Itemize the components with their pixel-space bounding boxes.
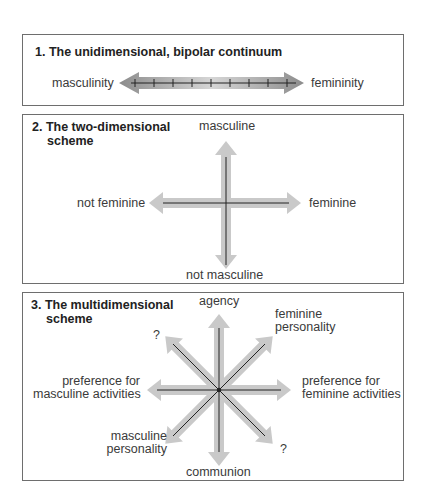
not-feminine-label: not feminine: [77, 196, 145, 210]
masculine-personality-label-2: personality: [87, 442, 167, 456]
pref-masculine-label-1: preference for: [62, 374, 140, 388]
communion-label: communion: [186, 465, 251, 479]
feminine-label: feminine: [309, 196, 356, 210]
pref-feminine-label-2: feminine activities: [302, 387, 401, 401]
top-left-question-label: ?: [153, 328, 160, 342]
agency-label: agency: [199, 294, 239, 308]
not-masculine-label: not masculine: [186, 268, 263, 282]
masculine-label: masculine: [199, 119, 255, 133]
feminine-personality-label-2: personality: [275, 320, 335, 334]
panel-unidimensional: 1. The unidimensional, bipolar continuum…: [22, 34, 404, 106]
bipolar-arrow-icon: [23, 35, 405, 107]
panel-multidimensional: 3. The multidimensional scheme agency co…: [22, 292, 404, 481]
masculine-personality-label-1: masculine: [87, 429, 167, 443]
feminine-personality-label-1: feminine: [275, 307, 322, 321]
bottom-right-question-label: ?: [280, 442, 287, 456]
panel-two-dimensional: 2. The two-dimensional scheme masculine …: [22, 114, 404, 284]
pref-masculine-label-2: masculine activities: [33, 387, 140, 401]
pref-feminine-label-1: preference for: [302, 374, 380, 388]
